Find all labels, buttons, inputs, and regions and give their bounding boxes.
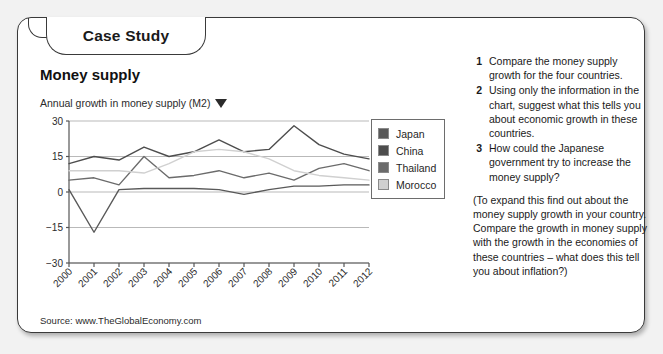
- money-supply-chart: 30150−15−30 2000200120022003200420052006…: [38, 113, 458, 313]
- question-text: How could the Japanese government try to…: [489, 141, 651, 184]
- legend-label-morocco: Morocco: [396, 179, 436, 191]
- chart-x-tick-labels: 2000200120022003200420052006200720082009…: [51, 265, 375, 289]
- y-tick-label: 0: [57, 187, 63, 198]
- chart-y-tick-labels: 30150−15−30: [46, 116, 63, 269]
- legend-item[interactable]: Morocco: [378, 176, 436, 193]
- y-tick-label: 30: [52, 116, 64, 127]
- question-number: 3: [473, 141, 482, 184]
- case-study-tab: Case Study: [46, 17, 206, 55]
- x-tick-label: 2005: [176, 265, 200, 289]
- x-tick-label: 2006: [201, 265, 225, 289]
- x-tick-label: 2003: [126, 265, 150, 289]
- x-tick-label: 2009: [276, 265, 300, 289]
- legend-swatch-japan: [378, 128, 389, 139]
- chart-axes: [66, 121, 369, 267]
- x-tick-label: 2000: [51, 265, 75, 289]
- expand-note: (To expand this find out about the money…: [473, 193, 651, 278]
- chart-caption-label: Annual growth in money supply (M2): [40, 97, 210, 109]
- y-tick-label: −30: [46, 258, 63, 269]
- y-tick-label: −15: [46, 222, 63, 233]
- x-tick-label: 2011: [326, 265, 349, 288]
- chart-column: Money supply Annual growth in money supp…: [38, 66, 460, 324]
- y-tick-label: 15: [52, 151, 64, 162]
- caret-down-icon[interactable]: [215, 99, 227, 108]
- question-item: 1 Compare the money supply growth for th…: [473, 54, 651, 82]
- legend-item[interactable]: Thailand: [378, 159, 436, 176]
- legend-label-thailand: Thailand: [396, 162, 436, 174]
- legend-swatch-china: [378, 145, 389, 156]
- x-tick-label: 2012: [351, 265, 375, 289]
- legend-item[interactable]: China: [378, 142, 436, 159]
- x-tick-label: 2002: [101, 265, 125, 289]
- screenshot-root: Case Study Money supply Annual growth in…: [0, 0, 663, 354]
- question-item: 2 Using only the information in the char…: [473, 83, 651, 140]
- chart-caption: Annual growth in money supply (M2): [40, 97, 460, 109]
- page-title: Money supply: [40, 66, 460, 83]
- chart-legend: Japan China Thailand Morocco: [371, 119, 445, 199]
- question-text: Using only the information in the chart,…: [489, 83, 651, 140]
- chart-series-lines: [69, 126, 369, 233]
- x-tick-label: 2001: [76, 265, 100, 289]
- legend-item[interactable]: Japan: [378, 125, 436, 142]
- case-study-tab-label: Case Study: [83, 27, 169, 45]
- legend-label-japan: Japan: [396, 128, 425, 140]
- series-line-china: [69, 126, 369, 164]
- x-tick-label: 2004: [151, 265, 175, 289]
- chart-gridlines: [69, 121, 369, 263]
- question-item: 3 How could the Japanese government try …: [473, 141, 651, 184]
- legend-label-china: China: [396, 145, 423, 157]
- question-text: Compare the money supply growth for the …: [489, 54, 651, 82]
- case-study-card: Case Study Money supply Annual growth in…: [17, 17, 645, 333]
- x-tick-label: 2008: [251, 265, 275, 289]
- case-study-tab-notch: [28, 18, 48, 38]
- question-number: 1: [473, 54, 482, 82]
- x-tick-label: 2007: [226, 265, 250, 289]
- x-tick-label: 2010: [301, 265, 325, 289]
- legend-swatch-morocco: [378, 179, 389, 190]
- legend-swatch-thailand: [378, 162, 389, 173]
- chart-source: Source: www.TheGlobalEconomy.com: [40, 315, 460, 326]
- questions-column: 1 Compare the money supply growth for th…: [473, 54, 651, 278]
- series-line-morocco: [69, 149, 369, 180]
- question-number: 2: [473, 83, 482, 140]
